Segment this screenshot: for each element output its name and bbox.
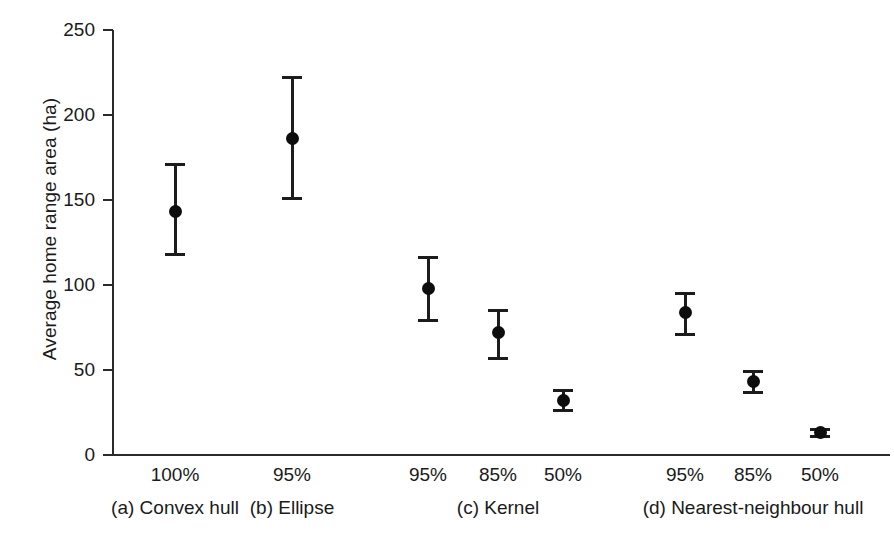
data-point-marker <box>286 132 299 145</box>
error-bar-cap-lower <box>553 409 573 412</box>
error-bar-cap-lower <box>488 357 508 360</box>
y-axis-tick <box>103 369 113 371</box>
home-range-area-chart: Average home range area (ha) 05010015020… <box>0 0 894 536</box>
y-axis-tick-label: 100 <box>9 274 95 296</box>
error-bar-cap-lower <box>282 197 302 200</box>
x-axis-line <box>112 454 890 456</box>
error-bar-cap-lower <box>810 435 830 438</box>
error-bar-line <box>752 372 755 392</box>
x-axis-tick-label: 50% <box>760 464 880 486</box>
error-bar-line <box>291 78 294 199</box>
data-point-marker <box>422 282 435 295</box>
error-bar-line <box>497 311 500 359</box>
error-bar-line <box>819 430 822 437</box>
y-axis-tick-label: 50 <box>9 359 95 381</box>
error-bar-line <box>684 294 687 335</box>
error-bar-cap-lower <box>418 319 438 322</box>
x-axis-tick-label: 50% <box>503 464 623 486</box>
x-axis-tick-label: 100% <box>115 464 235 486</box>
error-bar-cap-upper <box>675 292 695 295</box>
data-point-marker <box>747 375 760 388</box>
y-axis-tick-label: 0 <box>9 444 95 466</box>
error-bar-line <box>174 164 177 254</box>
error-bar-cap-upper <box>743 370 763 373</box>
y-axis-line <box>112 30 114 456</box>
error-bar-cap-upper <box>418 256 438 259</box>
error-bar-cap-lower <box>743 391 763 394</box>
error-bar-cap-upper <box>282 76 302 79</box>
error-bar-cap-upper <box>165 163 185 166</box>
x-axis-tick-label: 95% <box>232 464 352 486</box>
error-bar-cap-lower <box>165 253 185 256</box>
data-point-marker <box>492 326 505 339</box>
data-point-marker <box>169 205 182 218</box>
y-axis-tick <box>103 199 113 201</box>
x-axis-group-label: (d) Nearest-neighbour hull <box>593 497 894 519</box>
y-axis-tick-label: 250 <box>9 19 95 41</box>
y-axis-tick <box>103 29 113 31</box>
y-axis-tick <box>103 454 113 456</box>
error-bar-line <box>427 258 430 321</box>
error-bar-cap-upper <box>553 389 573 392</box>
error-bar-cap-lower <box>675 333 695 336</box>
y-axis-tick <box>103 284 113 286</box>
data-point-marker <box>557 394 570 407</box>
y-axis-tick-label: 150 <box>9 189 95 211</box>
error-bar-cap-upper <box>488 309 508 312</box>
data-point-marker <box>814 426 827 439</box>
y-axis-tick-label: 200 <box>9 104 95 126</box>
data-point-marker <box>679 306 692 319</box>
error-bar-line <box>562 390 565 410</box>
y-axis-tick <box>103 114 113 116</box>
error-bar-cap-upper <box>810 428 830 431</box>
